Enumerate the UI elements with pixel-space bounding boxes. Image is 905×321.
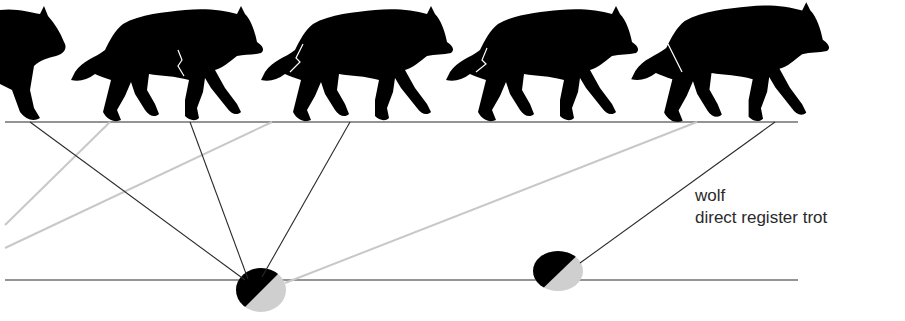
- wolf-silhouette-4: [446, 6, 638, 121]
- wolf-silhouette-1: [0, 6, 66, 120]
- wolf-trot-diagram: [0, 0, 905, 321]
- caption-subtitle: direct register trot: [695, 207, 827, 229]
- wolf-silhouettes: [0, 2, 829, 122]
- footprint-1: [230, 260, 292, 316]
- ground-lines: [5, 122, 798, 280]
- caption-title: wolf: [695, 185, 827, 207]
- light-projection-lines: [5, 122, 697, 283]
- wolf-silhouette-5: [631, 2, 829, 122]
- footprint-2: [530, 245, 588, 295]
- wolf-silhouette-3: [261, 6, 453, 121]
- wolf-silhouette-2: [71, 6, 263, 121]
- diagram-caption: wolf direct register trot: [695, 185, 827, 229]
- dark-projection-lines: [30, 122, 775, 280]
